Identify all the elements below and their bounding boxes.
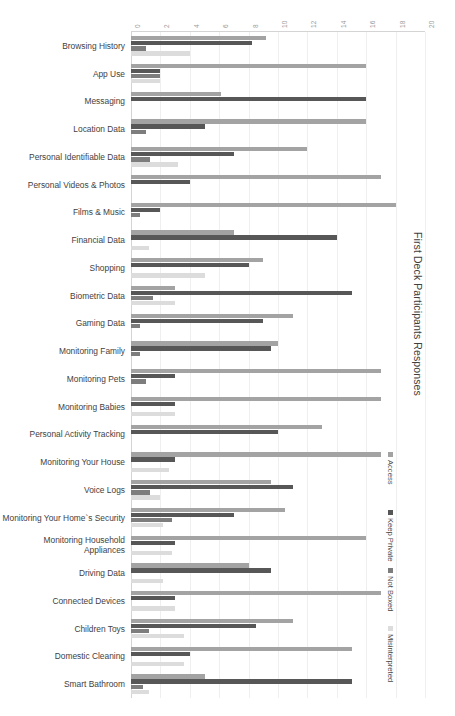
x-axis: 02468101214161820 (131, 10, 425, 32)
bar-misinterpreted (131, 301, 175, 305)
bar-access (131, 563, 249, 567)
bar-keep-private (131, 41, 252, 45)
bar-access (131, 119, 366, 123)
chart-legend: AccessKeep PrivateNot BoxedMisinterprete… (395, 452, 409, 692)
bar-not-boxed (131, 296, 153, 300)
legend-item[interactable]: Not Boxed (386, 568, 396, 611)
bar-keep-private (131, 457, 175, 461)
bar-keep-private (131, 624, 256, 628)
chart-category-row: Location Data (131, 115, 425, 143)
bar-misinterpreted (131, 634, 184, 638)
chart-category-row: Personal Activity Tracking (131, 421, 425, 449)
category-label: Smart Bathroom (1, 679, 125, 689)
chart-category-row: Monitoring Your Home`s Security (131, 504, 425, 532)
bar-not-boxed (131, 130, 146, 134)
bar-access (131, 230, 234, 234)
legend-item[interactable]: Misinterpreted (386, 626, 396, 682)
bar-keep-private (131, 541, 175, 545)
bar-misinterpreted (131, 523, 163, 527)
bar-keep-private (131, 596, 175, 600)
bar-keep-private (131, 291, 352, 295)
bar-misinterpreted (131, 273, 205, 277)
bar-misinterpreted (131, 551, 172, 555)
bar-not-boxed (131, 490, 150, 494)
category-label: Personal Identifiable Data (1, 152, 125, 162)
chart-category-row: Messaging (131, 88, 425, 116)
bar-access (131, 619, 293, 623)
bar-misinterpreted (131, 495, 160, 499)
bar-access (131, 480, 271, 484)
bar-keep-private (131, 513, 234, 517)
chart-category-row: Films & Music (131, 199, 425, 227)
legend-label: Access (386, 460, 395, 484)
legend-swatch-icon (388, 626, 393, 631)
x-axis-tick-label: 12 (310, 20, 317, 28)
bar-keep-private (131, 485, 293, 489)
category-label: Domestic Cleaning (1, 651, 125, 661)
legend-swatch-icon (388, 452, 393, 457)
category-label: Personal Videos & Photos (1, 180, 125, 190)
category-label: Films & Music (1, 207, 125, 217)
bar-misinterpreted (131, 662, 184, 666)
bar-access (131, 674, 205, 678)
category-label: Monitoring Family (1, 346, 125, 356)
x-axis-tick-label: 18 (399, 20, 406, 28)
bar-access (131, 425, 322, 429)
category-label: Monitoring Your Home`s Security (1, 513, 125, 523)
x-axis-tick-label: 0 (134, 24, 141, 28)
legend-swatch-icon (388, 510, 393, 515)
chart-category-row: Domestic Cleaning (131, 643, 425, 671)
gridline (425, 32, 426, 698)
category-label: Biometric Data (1, 291, 125, 301)
bar-access (131, 175, 381, 179)
bar-keep-private (131, 235, 337, 239)
chart-category-row: Connected Devices (131, 587, 425, 615)
bar-not-boxed (131, 74, 160, 78)
category-label: Children Toys (1, 624, 125, 634)
legend-item[interactable]: Keep Private (386, 510, 396, 561)
bar-keep-private (131, 152, 234, 156)
bar-misinterpreted (131, 162, 178, 166)
category-label: Gaming Data (1, 318, 125, 328)
category-label: App Use (1, 69, 125, 79)
chart-category-row: Monitoring Babies (131, 393, 425, 421)
bar-misinterpreted (131, 579, 163, 583)
chart-category-row: Monitoring Your House (131, 448, 425, 476)
chart-category-row: Children Toys (131, 615, 425, 643)
bar-access (131, 397, 381, 401)
bar-misinterpreted (131, 606, 175, 610)
category-label: Messaging (1, 96, 125, 106)
bar-misinterpreted (131, 412, 175, 416)
bar-not-boxed (131, 157, 150, 161)
category-label: Personal Activity Tracking (1, 429, 125, 439)
chart-category-row: Monitoring Household Appliances (131, 532, 425, 560)
bar-access (131, 92, 221, 96)
legend-label: Not Boxed (386, 576, 395, 611)
x-axis-tick-label: 16 (369, 20, 376, 28)
bar-keep-private (131, 402, 175, 406)
x-axis-tick-label: 4 (193, 24, 200, 28)
chart-category-row: Driving Data (131, 559, 425, 587)
chart-category-row: Browsing History (131, 32, 425, 60)
chart-title: First Deck Participants Responses (412, 232, 424, 396)
bar-access (131, 508, 285, 512)
chart-category-row: App Use (131, 60, 425, 88)
category-label: Voice Logs (1, 485, 125, 495)
chart-category-row: Smart Bathroom (131, 670, 425, 698)
plot-area: Browsing HistoryApp UseMessagingLocation… (131, 32, 425, 698)
bar-access (131, 536, 366, 540)
bar-misinterpreted (131, 79, 160, 83)
bar-keep-private (131, 430, 278, 434)
category-label: Monitoring Your House (1, 457, 125, 467)
bar-access (131, 452, 381, 456)
legend-label: Keep Private (386, 518, 395, 561)
x-axis-tick-label: 10 (281, 20, 288, 28)
bar-not-boxed (131, 352, 140, 356)
bar-access (131, 203, 396, 207)
bar-not-boxed (131, 46, 146, 50)
category-label: Monitoring Household Appliances (1, 535, 125, 555)
bar-keep-private (131, 124, 205, 128)
chart-category-row: Personal Videos & Photos (131, 171, 425, 199)
legend-item[interactable]: Access (386, 452, 396, 484)
bar-not-boxed (131, 379, 146, 383)
